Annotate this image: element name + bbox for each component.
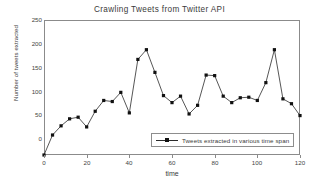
x-axis-title: time (44, 170, 300, 177)
legend-label: Tweets extracted in various time span (182, 137, 289, 144)
y-tick-label-0: 0 (20, 136, 42, 142)
y-axis-tick-labels: 250 200 150 100 50 0 (14, 0, 42, 185)
chart-legend: Tweets extracted in various time span (151, 133, 294, 147)
x-tick-label-0: 0 (32, 159, 56, 166)
x-tick-label-120: 120 (288, 159, 312, 166)
data-point-marker (196, 104, 199, 107)
data-point-marker (281, 97, 284, 100)
data-point-marker (128, 111, 131, 114)
data-point-marker (290, 102, 293, 105)
data-point-marker (68, 117, 71, 120)
y-tick-label-100: 100 (20, 89, 42, 95)
data-point-marker (170, 101, 173, 104)
x-tick-mark-0 (44, 155, 45, 158)
data-point-marker (222, 95, 225, 98)
data-point-marker (179, 95, 182, 98)
x-tick-label-100: 100 (245, 159, 269, 166)
data-point-marker (298, 114, 301, 117)
x-tick-label-60: 60 (160, 159, 184, 166)
data-point-marker (187, 112, 190, 115)
x-tick-label-80: 80 (203, 159, 227, 166)
x-tick-label-40: 40 (117, 159, 141, 166)
legend-marker-icon (156, 136, 178, 144)
data-point-marker (273, 48, 276, 51)
data-point-marker (153, 71, 156, 74)
data-point-marker (230, 101, 233, 104)
data-point-marker (162, 94, 165, 97)
data-point-marker (119, 91, 122, 94)
chart-figure: Crawling Tweets from Twitter API Number … (0, 0, 319, 185)
y-tick-label-150: 150 (20, 65, 42, 71)
data-point-marker (51, 133, 54, 136)
data-point-marker (136, 58, 139, 61)
x-tick-mark-40 (129, 155, 130, 158)
data-point-marker (102, 99, 105, 102)
data-point-marker (205, 73, 208, 76)
x-tick-mark-100 (257, 155, 258, 158)
x-tick-mark-80 (215, 155, 216, 158)
data-point-marker (94, 110, 97, 113)
data-point-marker (59, 124, 62, 127)
chart-title: Crawling Tweets from Twitter API (0, 5, 319, 14)
x-tick-mark-120 (300, 155, 301, 158)
y-tick-label-200: 200 (20, 41, 42, 47)
y-tick-label-50: 50 (20, 112, 42, 118)
data-point-marker (239, 96, 242, 99)
data-point-marker (145, 48, 148, 51)
data-point-marker (247, 96, 250, 99)
data-point-marker (111, 100, 114, 103)
x-tick-mark-20 (87, 155, 88, 158)
data-point-marker (213, 74, 216, 77)
data-point-marker (85, 125, 88, 128)
data-point-marker (77, 116, 80, 119)
data-point-marker (256, 99, 259, 102)
data-point-marker (264, 81, 267, 84)
x-tick-label-20: 20 (75, 159, 99, 166)
x-tick-mark-60 (172, 155, 173, 158)
y-tick-label-250: 250 (20, 17, 42, 23)
